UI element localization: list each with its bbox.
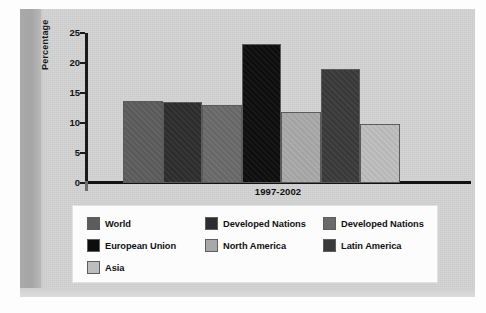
legend-label: North America [223, 241, 286, 251]
bar [281, 112, 321, 183]
bar [242, 44, 282, 183]
book-gutter-shadow [20, 9, 41, 297]
page-bottom-edge [20, 288, 475, 297]
legend-item-empty [323, 259, 441, 276]
bar-group [123, 33, 400, 183]
scanned-page: Percentage 0510152025 1997-2002 WorldDev… [0, 0, 486, 313]
bar [123, 101, 163, 183]
legend-swatch-icon [323, 217, 336, 230]
y-tick-label: 0 [40, 177, 80, 188]
y-tick-label: 5 [40, 147, 80, 158]
y-tick-label: 20 [40, 57, 80, 68]
legend-item-empty [205, 259, 323, 276]
legend-item: North America [205, 237, 323, 254]
legend-item: European Union [87, 237, 205, 254]
chart-legend: WorldDeveloped NationsDeveloped NationsE… [72, 205, 438, 283]
legend-swatch-icon [87, 261, 100, 274]
y-axis-line [85, 33, 88, 183]
legend-label: Developed Nations [341, 219, 424, 229]
legend-item: Developed Nations [205, 215, 323, 232]
y-tick-label: 10 [40, 117, 80, 128]
bar [321, 69, 361, 183]
legend-swatch-icon [87, 239, 100, 252]
legend-item: Developed Nations [323, 215, 441, 232]
x-axis-label: 1997-2002 [85, 186, 471, 197]
legend-label: World [105, 219, 131, 229]
bar [202, 105, 242, 183]
legend-swatch-icon [323, 239, 336, 252]
legend-item: World [87, 215, 205, 232]
legend-item: Asia [87, 259, 205, 276]
legend-label: Latin America [341, 241, 402, 251]
legend-swatch-icon [87, 217, 100, 230]
legend-items: WorldDeveloped NationsDeveloped NationsE… [87, 215, 431, 276]
y-tick-label: 15 [40, 87, 80, 98]
y-tick-label: 25 [40, 27, 80, 38]
bar [163, 102, 203, 183]
legend-label: European Union [105, 241, 176, 251]
y-axis-ticks: 0510152025 [44, 14, 80, 194]
legend-label: Asia [105, 263, 124, 273]
bar-chart: Percentage 0510152025 1997-2002 [44, 14, 475, 194]
legend-item: Latin America [323, 237, 441, 254]
legend-swatch-icon [205, 239, 218, 252]
legend-label: Developed Nations [223, 219, 306, 229]
bar [360, 124, 400, 183]
legend-swatch-icon [205, 217, 218, 230]
